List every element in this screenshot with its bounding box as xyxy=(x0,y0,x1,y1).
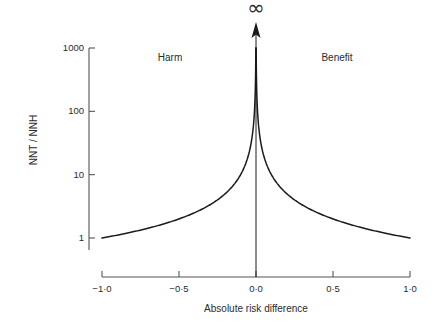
x-tick-label: 0·5 xyxy=(308,283,358,294)
x-axis-title: Absolute risk difference xyxy=(156,303,356,314)
x-tick-label: 1·0 xyxy=(385,283,435,294)
y-tick-label: 100 xyxy=(40,105,84,116)
benefit-region-label: Benefit xyxy=(305,52,369,63)
harm-region-label: Harm xyxy=(140,52,200,63)
y-axis-ticks xyxy=(89,48,95,238)
x-tick-label: 0·0 xyxy=(231,283,281,294)
infinity-symbol: ∞ xyxy=(238,0,274,19)
y-tick-label: 1 xyxy=(40,232,84,243)
y-tick-label: 1000 xyxy=(40,42,84,53)
x-tick-label: −0·5 xyxy=(154,283,204,294)
y-tick-label: 10 xyxy=(40,169,84,180)
x-tick-label: −1·0 xyxy=(77,283,127,294)
y-axis-title: NNT / NNH xyxy=(28,80,39,200)
curve-benefit-branch xyxy=(256,48,410,238)
chart-figure: ∞ Harm Benefit NNT / NNH Absolute risk d… xyxy=(0,0,437,328)
curve-harm-branch xyxy=(102,48,256,238)
